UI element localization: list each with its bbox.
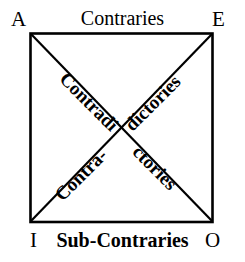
edge-label-contraries: Contraries bbox=[0, 8, 245, 29]
square-and-diagonals-graphic bbox=[0, 0, 245, 262]
edge-label-sub-contraries: Sub-Contraries bbox=[0, 229, 245, 251]
square-of-opposition-diagram: A E I O Contraries Sub-Contraries Contra… bbox=[0, 0, 245, 262]
